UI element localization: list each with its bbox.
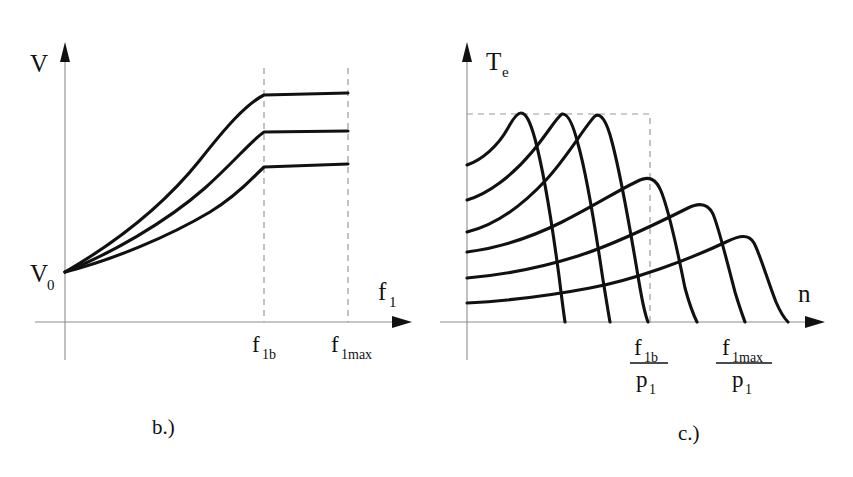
panel-b-y-axis-label: V	[30, 50, 48, 77]
panel-b-x-axis-label-base: f	[378, 278, 387, 305]
panel-c-curve-2	[467, 114, 610, 322]
panel-b: V V 0 f 1 f 1b f 1max b.)	[30, 42, 412, 439]
panel-c-tick-f1b-denominator-subscript: 1	[649, 382, 656, 397]
panel-b-tick-f1b-subscript: 1b	[262, 347, 276, 362]
panel-b-y-axis-arrow-icon	[60, 42, 70, 62]
panel-b-tick-f1max: f 1max	[331, 332, 372, 362]
panel-b-tick-f1b-base: f	[252, 332, 260, 357]
panel-b-curve-lower	[65, 164, 348, 272]
panel-b-tick-f1max-subscript: 1max	[341, 347, 372, 362]
panel-c-x-axis-label: n	[798, 280, 811, 307]
panel-b-tick-f1b: f 1b	[252, 332, 276, 362]
panel-c-x-axis-arrow-icon	[805, 316, 825, 328]
panel-b-caption: b.)	[152, 415, 175, 439]
panel-c-y-axis-label-base: T	[486, 48, 501, 75]
panel-b-x-axis-arrow-icon	[392, 316, 412, 328]
panel-c-y-axis-label-subscript: e	[502, 64, 509, 80]
panel-c-y-axis-arrow-icon	[462, 42, 472, 62]
panel-b-x-axis-label: f 1	[378, 278, 397, 310]
panel-c-y-axis-label: T e	[486, 48, 509, 80]
panel-c-caption: c.)	[678, 421, 700, 445]
panel-b-x-axis-label-subscript: 1	[389, 294, 397, 310]
panel-c-tick-f1b-over-p1: f 1b p 1	[630, 335, 668, 397]
panel-c-tick-f1max-denominator-subscript: 1	[745, 382, 752, 397]
panel-c-tick-f1max-over-p1: f 1max p 1	[716, 335, 772, 397]
panel-c-tick-f1b-numerator: f	[634, 335, 642, 360]
panel-c-tick-f1max-numerator: f	[722, 335, 730, 360]
panel-b-tick-f1max-base: f	[331, 332, 339, 357]
panel-b-v0-base: V	[30, 260, 48, 287]
panel-b-v0-label: V 0	[30, 260, 55, 293]
panel-b-curve-upper	[65, 93, 348, 272]
panel-c-tick-f1b-denominator: p	[636, 367, 648, 392]
panel-c: T e n f 1b p 1 f 1max p 1 c.)	[440, 42, 825, 445]
panel-c-tick-f1max-denominator: p	[732, 367, 744, 392]
panel-c-curve-1	[467, 113, 565, 322]
panel-b-v0-subscript: 0	[47, 277, 55, 293]
figure-container: V V 0 f 1 f 1b f 1max b.)	[0, 0, 853, 477]
diagram-svg: V V 0 f 1 f 1b f 1max b.)	[0, 0, 853, 477]
